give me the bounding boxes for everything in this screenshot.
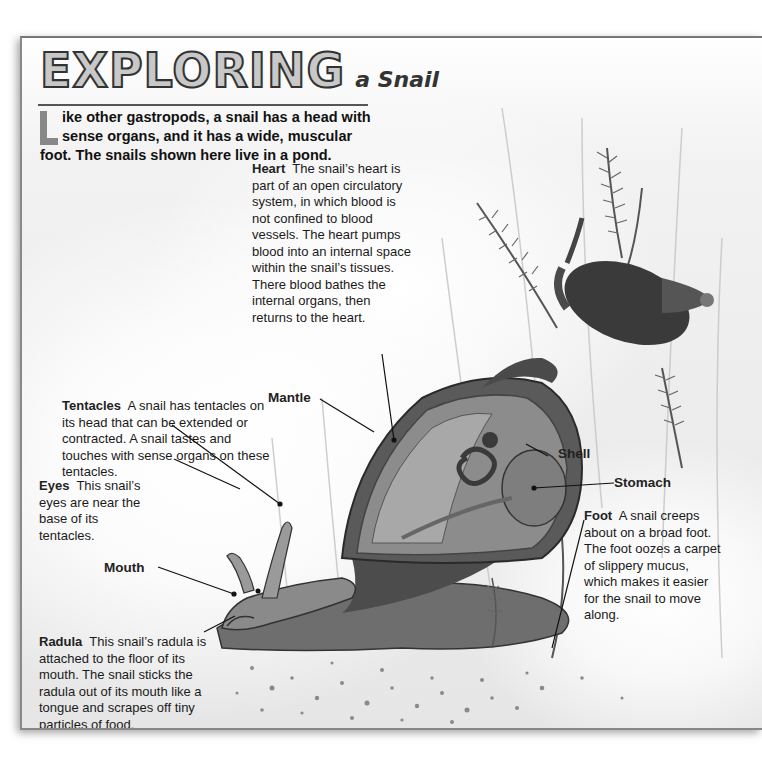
dropcap-l-icon (40, 111, 58, 145)
page-title: EXPLORING a Snail (40, 46, 439, 94)
title-subject: a Snail (355, 67, 439, 92)
title-divider (38, 104, 368, 106)
label-mouth: Mouth (104, 560, 144, 575)
callout-heart: Heart The snail’s heart is part of an op… (252, 161, 412, 326)
callout-foot: Foot A snail creeps about on a broad foo… (584, 508, 724, 624)
pond-floor-speckles (236, 662, 624, 725)
label-mantle: Mantle (268, 390, 311, 405)
intro-text: ike other gastropods, a snail has a head… (40, 109, 371, 163)
callout-tentacles: Tentacles A snail has tentacles on its h… (62, 398, 272, 481)
callout-foot-term: Foot (584, 508, 612, 523)
callout-eyes: Eyes This snail’s eyes are near the base… (39, 478, 149, 544)
title-exploring: EXPLORING (40, 45, 345, 95)
callout-heart-text: The snail’s heart is part of an open cir… (252, 161, 411, 325)
callout-radula: Radula This snail’s radula is attached t… (39, 634, 224, 730)
label-shell: Shell (558, 446, 590, 461)
intro-paragraph: ike other gastropods, a snail has a head… (40, 108, 380, 165)
label-stomach: Stomach (614, 475, 671, 490)
callout-tentacles-term: Tentacles (62, 398, 121, 413)
callout-heart-term: Heart (252, 161, 285, 176)
upper-snail-icon (553, 218, 714, 361)
callout-foot-text: A snail creeps about on a broad foot. Th… (584, 508, 721, 622)
textbook-page: EXPLORING a Snail ike other gastropods, … (20, 36, 762, 730)
callout-eyes-term: Eyes (39, 478, 69, 493)
callout-radula-term: Radula (39, 634, 82, 649)
